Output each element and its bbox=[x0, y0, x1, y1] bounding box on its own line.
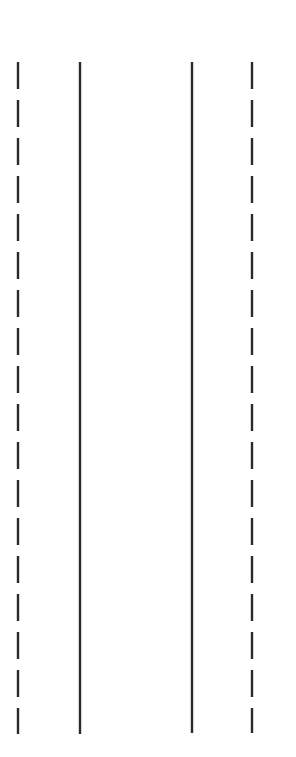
lane-lines-diagram bbox=[0, 0, 296, 757]
